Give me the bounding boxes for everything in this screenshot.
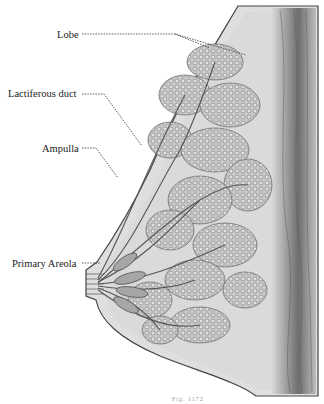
figure-caption: Fig. 1172 <box>172 396 204 402</box>
label-lobe: Lobe <box>57 30 79 41</box>
pectoral-muscle <box>272 8 316 394</box>
label-ampulla: Ampulla <box>42 144 79 155</box>
breast-anatomy-diagram <box>0 0 324 404</box>
label-primary-areola: Primary Areola <box>12 259 76 270</box>
label-lactiferous-duct: Lactiferous duct <box>8 89 77 100</box>
